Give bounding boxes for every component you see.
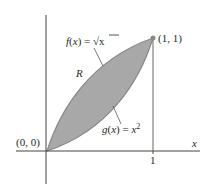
region-r: [47, 38, 153, 151]
f-label: f(x) = √x: [66, 35, 105, 48]
area-between-curves-diagram: f(x) = √x R g(x) = x2 (0, 0) (1, 1) x 1: [0, 0, 208, 186]
region-label: R: [75, 67, 83, 79]
x-tick-label: 1: [150, 154, 156, 166]
point-1-1: [151, 36, 156, 41]
origin-label: (0, 0): [16, 136, 40, 149]
point-label: (1, 1): [158, 32, 182, 45]
g-label: g(x) = x2: [102, 122, 140, 136]
g-leader-line: [113, 106, 121, 124]
x-axis-label: x: [191, 137, 197, 149]
f-leader-line: [94, 48, 103, 66]
